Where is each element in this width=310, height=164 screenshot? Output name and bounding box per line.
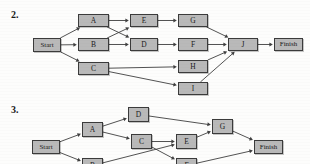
- page-canvas: 2. StartABCEDGFHIJFinish 3. StartADCEGFi…: [0, 0, 310, 164]
- diagram-3-arrowhead-f3-to-finish3: [249, 149, 253, 153]
- diagram-3-edge-start3-to-b3: [60, 153, 78, 160]
- diagram-3-node-finish3: Finish: [254, 140, 283, 154]
- diagram-3-edge-e3-to-g3: [197, 132, 208, 137]
- diagram-3-arrowhead-d3-to-g3: [207, 122, 211, 126]
- diagram-3-node-g3: G: [212, 119, 233, 134]
- diagram-3-edge-d3-to-g3: [149, 116, 208, 124]
- diagram-problem-3: StartADCEGFinishBF: [0, 0, 310, 164]
- diagram-3-arrowhead-b3-to-e3: [171, 143, 175, 147]
- diagram-3-node-b3: B: [82, 158, 103, 164]
- diagram-3-node-start3: Start: [32, 140, 60, 154]
- diagram-3-edge-c3-to-f3: [152, 147, 173, 158]
- diagram-3-edge-a3-to-d3: [103, 119, 124, 126]
- diagram-3-arrowhead-a3-to-c3: [126, 136, 130, 140]
- diagram-3-edge-start3-to-a3: [60, 135, 78, 142]
- diagram-3-node-d3: D: [128, 107, 149, 122]
- diagram-3-node-f3: F: [176, 158, 197, 164]
- diagram-3-node-c3: C: [131, 134, 152, 149]
- diagram-3-edge-a3-to-c3: [103, 132, 127, 138]
- diagram-3-edge-f3-to-finish3: [197, 151, 250, 163]
- diagram-3-node-e3: E: [176, 134, 197, 149]
- diagram-3-arrowhead-c3-to-e3: [171, 140, 174, 144]
- diagram-3-edge-g3-to-finish3: [233, 131, 251, 139]
- diagram-3-node-a3: A: [82, 122, 103, 137]
